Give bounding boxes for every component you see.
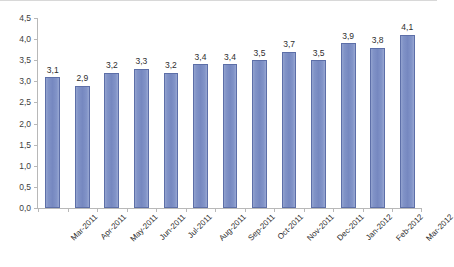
bar[interactable] bbox=[134, 69, 149, 208]
bars-layer: 3,12,93,23,33,23,43,43,53,73,53,93,84,1 bbox=[38, 18, 422, 208]
x-axis-category-label: Sep-2011 bbox=[247, 213, 277, 243]
bar-slot: 3,3 bbox=[127, 18, 157, 208]
y-axis-tick-label: 3,5 bbox=[19, 56, 31, 65]
bar[interactable] bbox=[400, 35, 415, 208]
x-axis-tick bbox=[392, 208, 393, 212]
bar-value-label: 2,9 bbox=[76, 74, 88, 83]
bar-value-label: 3,2 bbox=[165, 61, 177, 70]
bar-slot: 3,5 bbox=[245, 18, 275, 208]
x-axis-category-label: Jun-2011 bbox=[158, 213, 187, 242]
bar[interactable] bbox=[311, 60, 326, 208]
bar-slot: 4,1 bbox=[392, 18, 422, 208]
bar-value-label: 3,9 bbox=[342, 32, 354, 41]
x-axis-category-label: Jul-2011 bbox=[187, 213, 214, 240]
x-axis-tick bbox=[156, 208, 157, 212]
x-axis-tick bbox=[363, 208, 364, 212]
y-axis-tick-label: 4,5 bbox=[19, 14, 31, 23]
x-axis-category-label: Dec-2011 bbox=[336, 213, 366, 243]
x-axis-category-label: Mar-2011 bbox=[70, 213, 99, 242]
bar[interactable] bbox=[164, 73, 179, 208]
bar[interactable] bbox=[252, 60, 267, 208]
bar[interactable] bbox=[104, 73, 119, 208]
x-axis-tick bbox=[68, 208, 69, 212]
x-axis-tick bbox=[274, 208, 275, 212]
bar-slot: 3,2 bbox=[97, 18, 127, 208]
bar[interactable] bbox=[282, 52, 297, 208]
x-axis-tick bbox=[215, 208, 216, 212]
bar[interactable] bbox=[341, 43, 356, 208]
bar-value-label: 3,8 bbox=[372, 36, 384, 45]
bar[interactable] bbox=[223, 64, 238, 208]
plot-area: 0,00,51,01,52,02,53,03,54,04,5 3,12,93,2… bbox=[37, 18, 422, 209]
bar-value-label: 3,5 bbox=[313, 49, 325, 58]
bar[interactable] bbox=[370, 48, 385, 208]
x-axis-tick bbox=[421, 208, 422, 212]
x-axis-tick bbox=[186, 208, 187, 212]
bar-value-label: 3,3 bbox=[135, 57, 147, 66]
x-axis-tick bbox=[304, 208, 305, 212]
bar[interactable] bbox=[75, 86, 90, 208]
figure-top-border bbox=[0, 0, 437, 1]
x-axis-category-label: Nov-2011 bbox=[306, 213, 336, 243]
y-axis-tick-label: 3,0 bbox=[19, 77, 31, 86]
bar-slot: 3,9 bbox=[333, 18, 363, 208]
bar-slot: 3,4 bbox=[215, 18, 245, 208]
x-axis-tick bbox=[333, 208, 334, 212]
bar[interactable] bbox=[193, 64, 208, 208]
bar-slot: 3,1 bbox=[38, 18, 68, 208]
y-axis-tick-label: 1,5 bbox=[19, 140, 31, 149]
x-axis-category-label: May-2011 bbox=[129, 213, 159, 243]
x-axis-category-label: Mar-2012 bbox=[425, 213, 454, 243]
bar-slot: 3,5 bbox=[304, 18, 334, 208]
x-axis-tick bbox=[127, 208, 128, 212]
bar-value-label: 3,5 bbox=[254, 49, 266, 58]
bar-value-label: 4,1 bbox=[401, 23, 413, 32]
x-axis-category-labels: Mar-2011Apr-2011May-2011Jun-2011Jul-2011… bbox=[37, 213, 422, 267]
bar-value-label: 3,1 bbox=[47, 66, 59, 75]
y-axis-tick-label: 1,0 bbox=[19, 162, 31, 171]
bar-value-label: 3,4 bbox=[195, 53, 207, 62]
x-axis-tick bbox=[38, 208, 39, 212]
y-axis-tick-label: 0,5 bbox=[19, 183, 31, 192]
bar[interactable] bbox=[45, 77, 60, 208]
y-axis-tick-label: 2,5 bbox=[19, 98, 31, 107]
x-axis-category-label: Feb-2012 bbox=[395, 213, 425, 243]
bar-value-label: 3,2 bbox=[106, 61, 118, 70]
y-axis-tick-label: 2,0 bbox=[19, 119, 31, 128]
bar-slot: 3,7 bbox=[274, 18, 304, 208]
bar-value-label: 3,4 bbox=[224, 53, 236, 62]
x-axis-category-label: Oct-2011 bbox=[276, 213, 305, 242]
x-axis-tick bbox=[245, 208, 246, 212]
x-axis-category-label: Aug-2011 bbox=[218, 213, 248, 243]
x-axis-category-label: Jan-2012 bbox=[365, 213, 394, 242]
x-axis-tick bbox=[97, 208, 98, 212]
y-axis-tick-label: 0,0 bbox=[19, 204, 31, 213]
x-axis-category-label: Apr-2011 bbox=[99, 213, 128, 242]
bar-slot: 2,9 bbox=[68, 18, 98, 208]
bar-slot: 3,8 bbox=[363, 18, 393, 208]
bar-value-label: 3,7 bbox=[283, 40, 295, 49]
bar-slot: 3,2 bbox=[156, 18, 186, 208]
y-axis-tick-label: 4,0 bbox=[19, 35, 31, 44]
bar-slot: 3,4 bbox=[186, 18, 216, 208]
